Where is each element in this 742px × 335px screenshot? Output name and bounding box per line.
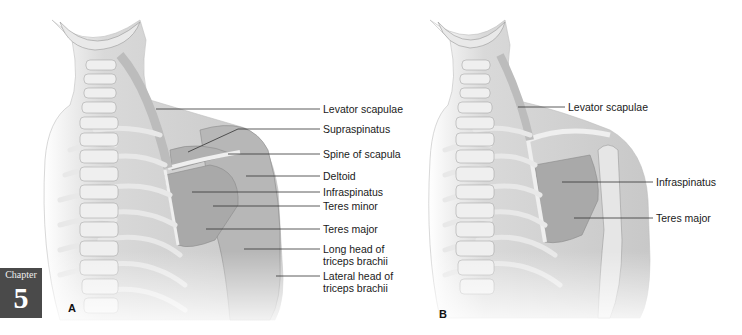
anatomy-label: Lateral head of triceps brachii	[323, 270, 403, 294]
anatomy-label: Deltoid	[323, 170, 356, 182]
chapter-word: Chapter	[0, 269, 42, 280]
anatomy-label: Infraspinatus	[323, 186, 383, 198]
anatomy-label: Levator scapulae	[568, 101, 648, 113]
anatomy-label: Supraspinatus	[323, 123, 390, 135]
anatomy-label: Teres minor	[323, 200, 378, 212]
chapter-tab: Chapter 5	[0, 268, 42, 318]
anatomy-label: Teres major	[323, 223, 378, 235]
panel-b-figure	[420, 0, 670, 335]
panel-b-letter: B	[439, 308, 447, 320]
anatomy-label: Levator scapulae	[323, 103, 403, 115]
anatomy-label: Spine of scapula	[323, 148, 401, 160]
anatomy-label: Teres major	[656, 212, 711, 224]
panel-a-letter: A	[68, 302, 76, 314]
anatomy-label: Infraspinatus	[656, 176, 716, 188]
panel-a-figure	[0, 0, 300, 335]
chapter-number: 5	[0, 281, 42, 315]
anatomy-label: Long head of triceps brachii	[323, 243, 403, 267]
